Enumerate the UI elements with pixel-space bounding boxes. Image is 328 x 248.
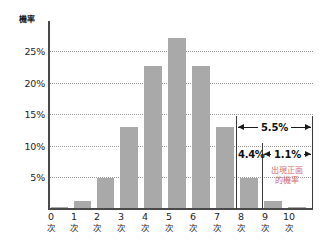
annotation-range-5-5: 5.5% — [238, 122, 311, 133]
arrow-left-icon — [264, 154, 271, 155]
bar-6 — [192, 66, 210, 208]
bar-9 — [264, 201, 282, 208]
y-axis-label: 機率 — [19, 13, 35, 24]
bar-1 — [74, 201, 91, 208]
y-tick-label-25: 25% — [5, 46, 45, 57]
arrow-left-icon — [238, 127, 258, 128]
y-tick-label-5: 5% — [5, 172, 45, 183]
bar-10 — [288, 207, 306, 208]
arrow-right-icon — [291, 127, 311, 128]
annotation-label-5-5: 5.5% — [258, 122, 291, 133]
bar-4 — [144, 66, 162, 208]
bar-2 — [97, 178, 114, 208]
note-line-2: 的機率 — [262, 176, 312, 186]
annotation-range-1-1: 1.1% — [264, 149, 311, 160]
bar-8 — [240, 178, 258, 208]
annotation-note-heads-probability: 出現正面 的機率 — [262, 166, 312, 186]
bar-5 — [168, 38, 186, 208]
x-tick-10: 10 次 — [274, 211, 304, 234]
annotation-label-1-1: 1.1% — [271, 149, 304, 160]
note-line-1: 出現正面 — [262, 166, 312, 176]
bar-3 — [120, 127, 138, 208]
y-tick-label-20: 20% — [5, 78, 45, 89]
annotation-label-4-4: 4.4% — [238, 149, 265, 160]
x-tick-unit-10: 次 — [274, 223, 304, 235]
bar-0 — [51, 207, 68, 208]
y-tick-label-10: 10% — [5, 141, 45, 152]
divider-right-10 — [312, 116, 313, 209]
arrow-right-icon — [304, 154, 311, 155]
x-axis-line — [48, 208, 313, 210]
bar-7 — [216, 127, 234, 208]
x-tick-number-10: 10 — [274, 211, 304, 223]
y-tick-label-15: 15% — [5, 109, 45, 120]
binomial-distribution-chart: 機率 25% 20% 15% 10% 5% 5 — [0, 0, 328, 248]
